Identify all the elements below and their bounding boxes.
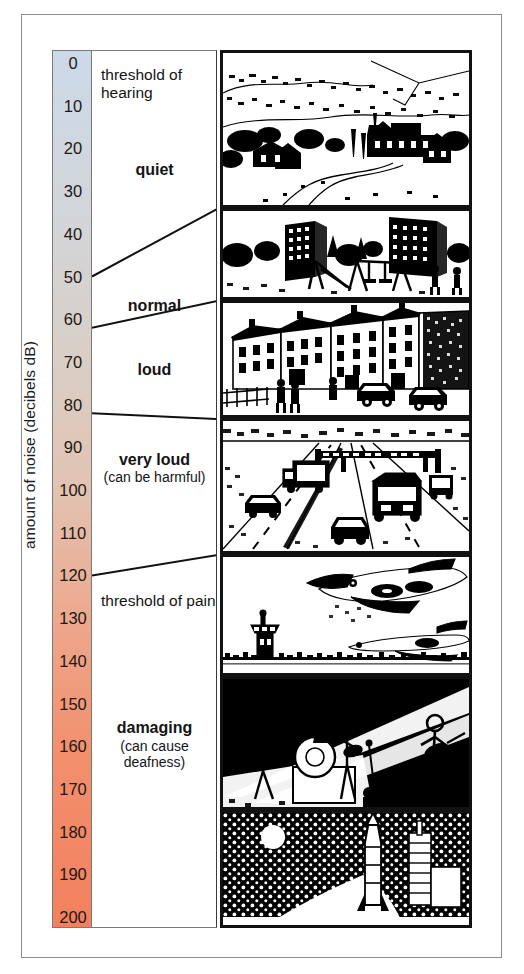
panel-countryside-village (220, 50, 472, 208)
scale-tick-160: 160 (53, 738, 92, 755)
band-label-quiet: quiet (92, 161, 217, 180)
connector-line-50db (92, 209, 217, 277)
scale-tick-70: 70 (53, 354, 92, 371)
band-label-text: loud (138, 361, 172, 378)
countryside-village-illustration (223, 53, 469, 205)
connector-lines (92, 51, 217, 928)
rock-concert-illustration (223, 679, 469, 807)
scale-tick-30: 30 (53, 183, 92, 200)
band-label-text: damaging (117, 719, 193, 736)
scale-tick-100: 100 (53, 482, 92, 499)
playground-illustration (223, 211, 469, 297)
city-street-illustration (223, 303, 469, 415)
connector-line-120db (92, 555, 217, 575)
noise-scale-chart: 0102030405060708090100110120130140150160… (52, 50, 472, 928)
band-label-text: threshold of pain (101, 592, 216, 609)
band-label-threshold-of-pain: threshold of pain (92, 592, 217, 610)
y-axis-title: amount of noise (decibels dB) (21, 185, 39, 705)
band-label-threshold-of-hearing: threshold of hearing (92, 66, 217, 102)
scale-tick-10: 10 (53, 98, 92, 115)
decibel-scale: 0102030405060708090100110120130140150160… (52, 50, 92, 928)
panel-city-street (220, 300, 472, 418)
band-label-text: threshold of hearing (101, 66, 182, 101)
jet-airport-illustration (223, 557, 469, 673)
scale-tick-110: 110 (53, 525, 92, 542)
scale-tick-200: 200 (53, 909, 92, 926)
scale-tick-0: 0 (53, 55, 92, 72)
band-label-very-loud: very loud(can be harmful) (92, 451, 217, 486)
motorway-illustration (223, 421, 469, 551)
band-label-sub: (can cause deafness) (92, 738, 217, 770)
band-label-column: threshold of hearingquietnormalloudvery … (92, 50, 217, 928)
scale-tick-60: 60 (53, 311, 92, 328)
panel-rock-concert (220, 676, 472, 810)
scale-tick-50: 50 (53, 269, 92, 286)
scale-tick-130: 130 (53, 610, 92, 627)
band-label-text: normal (128, 297, 181, 314)
scale-tick-120: 120 (53, 567, 92, 584)
connector-line-82db (92, 413, 217, 419)
scale-tick-190: 190 (53, 866, 92, 883)
band-label-text: quiet (135, 161, 173, 178)
scale-tick-140: 140 (53, 653, 92, 670)
scale-tick-170: 170 (53, 781, 92, 798)
scale-tick-180: 180 (53, 824, 92, 841)
rocket-launch-illustration (223, 813, 469, 925)
scale-tick-90: 90 (53, 439, 92, 456)
band-label-sub: (can be harmful) (92, 469, 217, 485)
scale-tick-20: 20 (53, 140, 92, 157)
panel-playground (220, 208, 472, 300)
scale-tick-80: 80 (53, 397, 92, 414)
band-label-loud: loud (92, 361, 217, 380)
panel-rocket-launch (220, 810, 472, 928)
scale-tick-150: 150 (53, 696, 92, 713)
band-label-normal: normal (92, 297, 217, 316)
band-label-text: very loud (119, 451, 190, 468)
band-label-damaging: damaging(can cause deafness) (92, 719, 217, 770)
panel-motorway (220, 418, 472, 554)
scale-tick-40: 40 (53, 226, 92, 243)
panel-jet-airport (220, 554, 472, 676)
illustration-column (220, 50, 472, 928)
